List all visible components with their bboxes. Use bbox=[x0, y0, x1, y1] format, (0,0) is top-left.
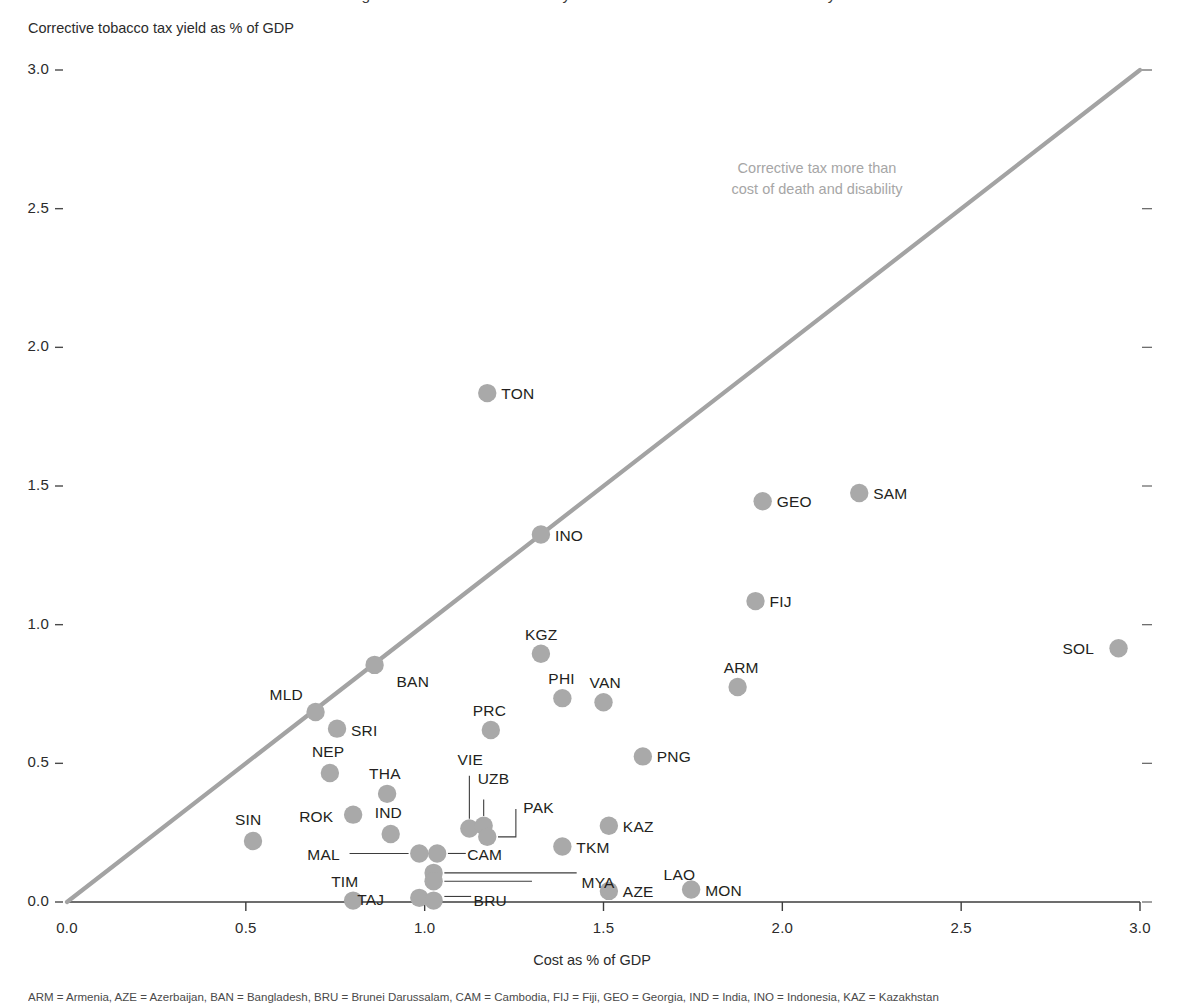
data-point-ind[interactable] bbox=[381, 825, 399, 843]
data-point-phi[interactable] bbox=[553, 689, 571, 707]
x-tick-label: 3.0 bbox=[1110, 919, 1170, 936]
data-point-kgz[interactable] bbox=[532, 645, 550, 663]
point-label-aze: AZE bbox=[623, 883, 654, 901]
x-tick-label: 1.5 bbox=[574, 919, 634, 936]
point-label-cam: CAM bbox=[467, 846, 502, 864]
data-point-ban[interactable] bbox=[365, 656, 383, 674]
data-point-sin[interactable] bbox=[244, 832, 262, 850]
data-point-mya[interactable] bbox=[424, 872, 442, 890]
reference-line-layer bbox=[67, 70, 1140, 902]
point-label-ban: BAN bbox=[397, 673, 429, 691]
y-tick-label: 0.5 bbox=[5, 753, 49, 770]
y-tick-label: 0.0 bbox=[5, 892, 49, 909]
parity-reference-line bbox=[67, 70, 1140, 902]
point-label-lao: LAO bbox=[664, 866, 696, 884]
data-point-prc[interactable] bbox=[482, 721, 500, 739]
y-tick-label: 2.5 bbox=[5, 199, 49, 216]
data-point-tha[interactable] bbox=[378, 785, 396, 803]
point-label-rok: ROK bbox=[299, 808, 333, 826]
data-point-kaz[interactable] bbox=[600, 817, 618, 835]
x-tick-label: 1.0 bbox=[395, 919, 455, 936]
y-tick-label: 2.0 bbox=[5, 337, 49, 354]
y-tick-label: 3.0 bbox=[5, 60, 49, 77]
data-point-sol[interactable] bbox=[1109, 639, 1127, 657]
point-label-bru: BRU bbox=[474, 892, 507, 910]
point-label-tim: TIM bbox=[331, 873, 358, 891]
data-point-geo[interactable] bbox=[753, 492, 771, 510]
data-point-png[interactable] bbox=[634, 747, 652, 765]
data-point-mal[interactable] bbox=[410, 844, 428, 862]
data-point-ino[interactable] bbox=[532, 525, 550, 543]
point-label-fij: FIJ bbox=[770, 593, 792, 611]
point-label-sam: SAM bbox=[873, 485, 907, 503]
point-label-prc: PRC bbox=[473, 702, 506, 720]
data-point-nep[interactable] bbox=[321, 764, 339, 782]
point-label-mld: MLD bbox=[270, 686, 303, 704]
data-point-rok[interactable] bbox=[344, 805, 362, 823]
data-point-sam[interactable] bbox=[850, 484, 868, 502]
data-point-pak[interactable] bbox=[478, 828, 496, 846]
point-label-sol: SOL bbox=[1063, 640, 1095, 658]
point-label-png: PNG bbox=[657, 748, 691, 766]
data-points-layer bbox=[244, 384, 1128, 910]
figure-footnote-clipped: ARM = Armenia, AZE = Azerbaijan, BAN = B… bbox=[28, 991, 1168, 1003]
point-label-sri: SRI bbox=[351, 722, 377, 740]
point-label-mya: MYA bbox=[582, 874, 615, 892]
x-tick-label: 0.0 bbox=[37, 919, 97, 936]
y-tick-label: 1.0 bbox=[5, 615, 49, 632]
point-label-pak: PAK bbox=[523, 799, 553, 817]
x-tick-label: 2.5 bbox=[931, 919, 991, 936]
point-label-tkm: TKM bbox=[576, 839, 609, 857]
point-label-mal: MAL bbox=[307, 846, 339, 864]
data-point-van[interactable] bbox=[594, 693, 612, 711]
point-label-phi: PHI bbox=[548, 670, 574, 688]
x-tick-label: 0.5 bbox=[216, 919, 276, 936]
data-point-tkm[interactable] bbox=[553, 837, 571, 855]
point-label-mon: MON bbox=[705, 882, 742, 900]
y-tick-label: 1.5 bbox=[5, 476, 49, 493]
point-label-van: VAN bbox=[590, 674, 621, 692]
data-point-mld[interactable] bbox=[306, 703, 324, 721]
point-label-tha: THA bbox=[369, 765, 401, 783]
point-label-arm: ARM bbox=[724, 659, 759, 677]
point-label-geo: GEO bbox=[777, 493, 812, 511]
point-label-ton: TON bbox=[501, 385, 534, 403]
data-point-sri[interactable] bbox=[328, 719, 346, 737]
point-label-uzb: UZB bbox=[478, 770, 510, 788]
point-label-taj: TAJ bbox=[357, 891, 384, 909]
point-label-kgz: KGZ bbox=[525, 626, 557, 644]
point-label-sin: SIN bbox=[235, 811, 261, 829]
data-point-ton[interactable] bbox=[478, 384, 496, 402]
data-point-arm[interactable] bbox=[728, 678, 746, 696]
data-point-bru[interactable] bbox=[424, 891, 442, 909]
data-point-cam[interactable] bbox=[428, 844, 446, 862]
point-label-ind: IND bbox=[375, 804, 402, 822]
leader-line-pak bbox=[498, 809, 516, 837]
point-label-vie: VIE bbox=[457, 751, 483, 769]
data-point-fij[interactable] bbox=[746, 592, 764, 610]
point-label-kaz: KAZ bbox=[623, 818, 654, 836]
point-label-nep: NEP bbox=[312, 743, 344, 761]
point-label-ino: INO bbox=[555, 527, 583, 545]
x-tick-label: 2.0 bbox=[752, 919, 812, 936]
